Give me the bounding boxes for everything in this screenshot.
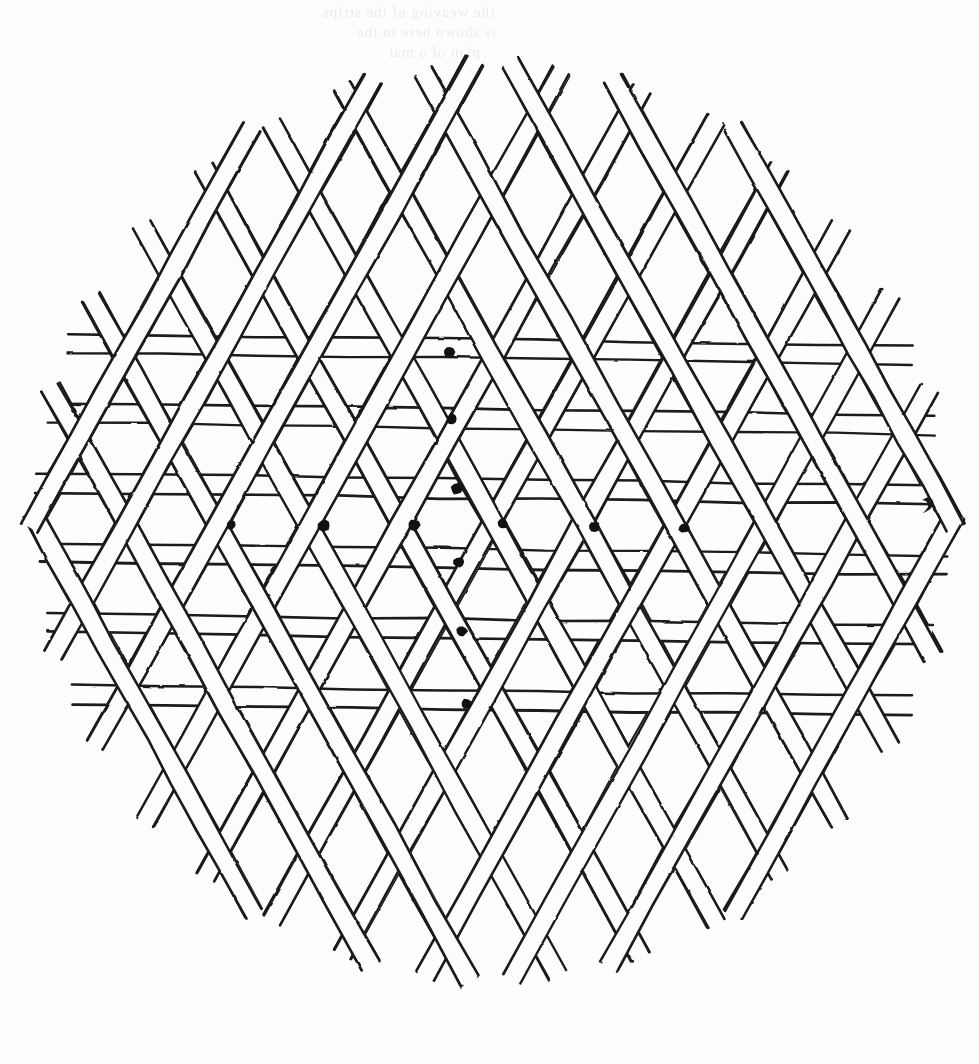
- figure-page: the weaving of the strips is shown here …: [0, 0, 979, 1064]
- up-right-strip-3-edge-b: [21, 122, 244, 523]
- weave-clip: [21, 56, 964, 987]
- horizontal-strip-3: [39, 543, 947, 575]
- weave-strips: [21, 56, 964, 987]
- triaxial-weave-figure: [0, 0, 979, 1064]
